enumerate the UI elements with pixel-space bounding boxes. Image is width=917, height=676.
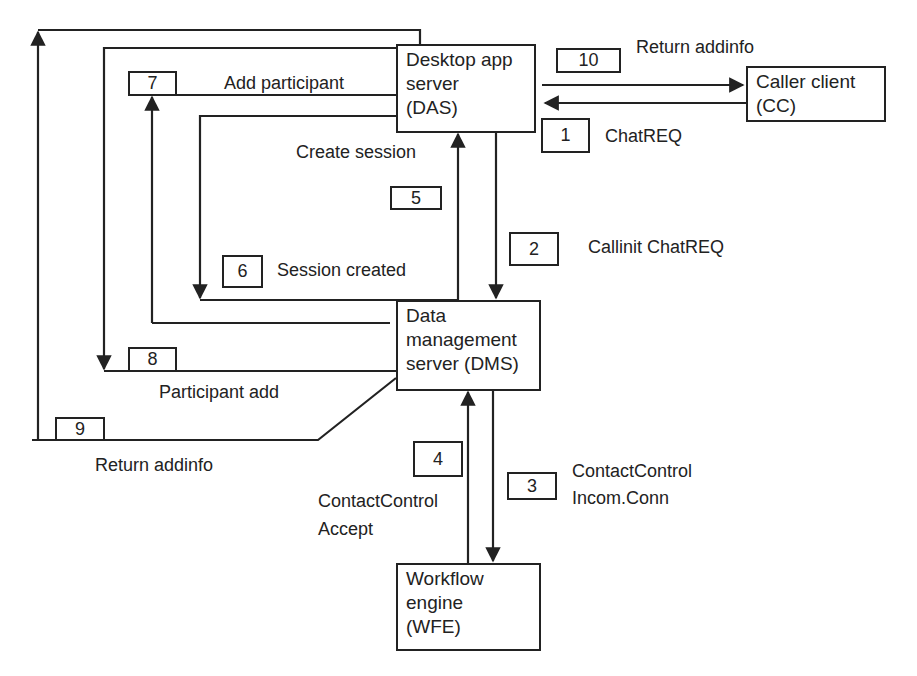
step-badge-7: 7: [128, 71, 177, 96]
node-das: Desktop app server (DAS): [396, 44, 536, 133]
node-dms: Data management server (DMS): [396, 300, 541, 391]
step-badge-2: 2: [509, 232, 559, 266]
step-badge-3: 3: [507, 472, 557, 500]
step-label-7: Add participant: [224, 72, 344, 94]
cc-line2: (CC): [756, 94, 884, 118]
step-label-6: Session created: [277, 259, 406, 281]
step-label-4-line1: ContactControl: [318, 490, 438, 512]
step-label-3-line1: ContactControl: [572, 460, 692, 482]
step-label-4-line2: Accept: [318, 518, 373, 540]
step-label-5: Create session: [296, 141, 416, 163]
wfe-line3: (WFE): [406, 615, 539, 639]
das-line1: Desktop app: [406, 48, 534, 72]
flow-diagram: Desktop app server (DAS) Caller client (…: [0, 0, 917, 676]
dms-line3: server (DMS): [406, 352, 539, 376]
step-label-9: Return addinfo: [95, 454, 213, 476]
cc-line1: Caller client: [756, 70, 884, 94]
node-wfe: Workflow engine (WFE): [396, 563, 541, 651]
dms-line2: management: [406, 328, 539, 352]
dms-line1: Data: [406, 304, 539, 328]
step-label-10: Return addinfo: [636, 36, 754, 58]
step-label-1: ChatREQ: [605, 125, 682, 147]
step-badge-8: 8: [128, 347, 177, 372]
step-badge-5: 5: [390, 186, 442, 210]
step-label-3-line2: Incom.Conn: [572, 487, 669, 509]
arrow-9-top: [38, 30, 420, 44]
step-label-2: Callinit ChatREQ: [588, 236, 724, 258]
step-badge-10: 10: [556, 48, 621, 73]
wfe-line2: engine: [406, 591, 539, 615]
das-line2: server: [406, 72, 534, 96]
step-badge-4: 4: [413, 441, 463, 477]
step-badge-9: 9: [55, 417, 105, 441]
step-badge-1: 1: [541, 118, 590, 153]
node-cc: Caller client (CC): [746, 66, 886, 122]
arrow-8-participant-add: [104, 48, 396, 369]
wfe-line1: Workflow: [406, 567, 539, 591]
step-badge-6: 6: [222, 255, 263, 288]
das-line3: (DAS): [406, 96, 534, 120]
step-label-8: Participant add: [159, 381, 279, 403]
